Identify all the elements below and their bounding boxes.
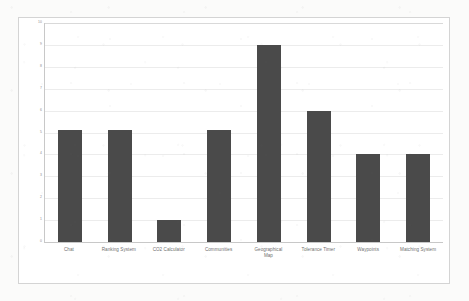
category-label-line: Waypoints: [343, 247, 393, 253]
bar[interactable]: [108, 130, 132, 242]
bar-slot: [294, 23, 344, 242]
category-label-line: Map: [244, 253, 294, 259]
y-axis-tick-label: 0: [40, 240, 42, 243]
y-axis-tick-label: 2: [40, 196, 42, 199]
y-axis-tick-label: 4: [40, 153, 42, 156]
bar-chart: 012345678910 ChatRanking SystemCO2 Calcu…: [18, 17, 450, 284]
x-axis-category-label: Communities: [194, 245, 244, 275]
y-axis-tick-label: 7: [40, 87, 42, 90]
y-axis-tick-label: 5: [40, 131, 42, 134]
x-axis-category-label: Ranking System: [94, 245, 144, 275]
category-label-line: Communities: [194, 247, 244, 253]
bar[interactable]: [207, 130, 231, 242]
bar[interactable]: [157, 220, 181, 242]
x-axis-category-label: CO2 Calculator: [144, 245, 194, 275]
x-axis-category-label: Matching System: [393, 245, 443, 275]
x-axis-category-label: Chat: [44, 245, 94, 275]
bars-container: [45, 23, 443, 242]
x-axis-category-label: Waypoints: [343, 245, 393, 275]
bar-slot: [244, 23, 294, 242]
category-label-line: Ranking System: [94, 247, 144, 253]
category-label-line: Tolerance Timer: [293, 247, 343, 253]
plot-area: 012345678910: [44, 23, 443, 243]
y-axis-tick-label: 8: [40, 65, 42, 68]
bar[interactable]: [257, 45, 281, 242]
y-axis-tick-label: 10: [38, 21, 42, 24]
y-axis-tick-label: 9: [40, 43, 42, 46]
bar-slot: [145, 23, 195, 242]
bar[interactable]: [58, 130, 82, 242]
category-label-line: CO2 Calculator: [144, 247, 194, 253]
bar-slot: [393, 23, 443, 242]
category-label-line: Chat: [44, 247, 94, 253]
bar[interactable]: [356, 154, 380, 242]
y-axis-tick-label: 3: [40, 175, 42, 178]
bar-slot: [344, 23, 394, 242]
bar-slot: [95, 23, 145, 242]
bar[interactable]: [307, 111, 331, 242]
bar[interactable]: [406, 154, 430, 242]
y-axis-tick-label: 6: [40, 109, 42, 112]
category-label-line: Matching System: [393, 247, 443, 253]
y-axis-tick-label: 1: [40, 218, 42, 221]
x-axis-category-label: Tolerance Timer: [293, 245, 343, 275]
bar-slot: [45, 23, 95, 242]
x-axis-category-label: GeographicalMap: [244, 245, 294, 275]
x-axis-category-labels: ChatRanking SystemCO2 CalculatorCommunit…: [44, 245, 443, 275]
bar-slot: [194, 23, 244, 242]
